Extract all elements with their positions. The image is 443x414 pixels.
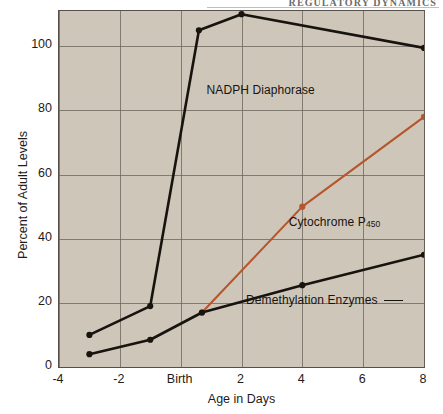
- y-axis-title: Percent of Adult Levels: [16, 110, 30, 280]
- x-tick-label: 6: [359, 372, 366, 386]
- figure-container: REGULATORY DYNAMICS 020406080100 -4-2Bir…: [0, 0, 443, 414]
- x-tick-label: -2: [113, 372, 124, 386]
- leader-line-demethylation: [384, 300, 403, 301]
- series-label-nadph-diaphorase: NADPH Diaphorase: [207, 83, 315, 97]
- series-label-cytochrome-p450: Cytochrome P450: [289, 215, 381, 229]
- y-tick-label: 100: [0, 37, 52, 51]
- gridline-vertical: [424, 11, 425, 367]
- x-tick-label: -4: [52, 372, 63, 386]
- running-head: REGULATORY DYNAMICS: [289, 0, 437, 8]
- x-tick-label: 8: [420, 372, 427, 386]
- x-tick-label: 4: [298, 372, 305, 386]
- x-tick-label: Birth: [167, 372, 193, 386]
- series-label-demethylation-enzymes: Demethylation Enzymes: [246, 293, 378, 307]
- y-tick-label: 0: [0, 358, 52, 372]
- series-annotations: NADPH DiaphoraseCytochrome P450Demethyla…: [59, 11, 424, 367]
- x-axis-title: Age in Days: [58, 392, 425, 406]
- y-tick-label: 20: [0, 294, 52, 308]
- x-tick-label: 2: [237, 372, 244, 386]
- plot-area: NADPH DiaphoraseCytochrome P450Demethyla…: [58, 10, 425, 368]
